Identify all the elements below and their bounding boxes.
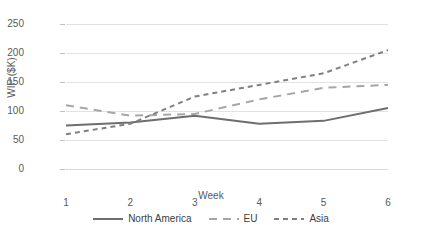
gridline bbox=[66, 169, 388, 170]
x-axis-tick-label: 6 bbox=[368, 198, 408, 208]
x-axis-tick-label: 3 bbox=[175, 198, 215, 208]
line-chart: WIP ($K) Week 050100150200250 123456 Nor… bbox=[0, 0, 422, 244]
series-line-eu bbox=[66, 85, 388, 116]
y-axis-tick-mark bbox=[60, 140, 65, 141]
plot-area: 050100150200250 123456 bbox=[66, 24, 388, 169]
legend-swatch-icon bbox=[93, 215, 123, 223]
legend: North AmericaEUAsia bbox=[0, 214, 422, 224]
y-axis-tick-label: 250 bbox=[0, 19, 24, 29]
y-axis-tick-label: 100 bbox=[0, 106, 24, 116]
legend-item-eu[interactable]: EU bbox=[209, 214, 258, 224]
y-axis-tick-mark bbox=[60, 53, 65, 54]
legend-label: EU bbox=[244, 214, 258, 224]
series-lines bbox=[66, 24, 388, 169]
legend-label: North America bbox=[128, 214, 191, 224]
x-axis-tick-label: 2 bbox=[110, 198, 150, 208]
y-axis-tick-mark bbox=[60, 111, 65, 112]
legend-label: Asia bbox=[309, 214, 328, 224]
y-axis-tick-mark bbox=[60, 82, 65, 83]
legend-swatch-icon bbox=[209, 215, 239, 223]
x-axis-tick-label: 4 bbox=[239, 198, 279, 208]
y-axis-tick-label: 200 bbox=[0, 48, 24, 58]
legend-swatch-icon bbox=[274, 215, 304, 223]
y-axis-tick-label: 50 bbox=[0, 135, 24, 145]
y-axis-tick-label: 150 bbox=[0, 77, 24, 87]
series-line-north-america bbox=[66, 108, 388, 125]
legend-item-north-america[interactable]: North America bbox=[93, 214, 191, 224]
y-axis-tick-label: 0 bbox=[0, 164, 24, 174]
y-axis-tick-mark bbox=[60, 169, 65, 170]
x-axis-tick-label: 1 bbox=[46, 198, 86, 208]
x-axis-tick-label: 5 bbox=[304, 198, 344, 208]
y-axis-tick-mark bbox=[60, 24, 65, 25]
legend-item-asia[interactable]: Asia bbox=[274, 214, 328, 224]
series-line-asia bbox=[66, 50, 388, 134]
